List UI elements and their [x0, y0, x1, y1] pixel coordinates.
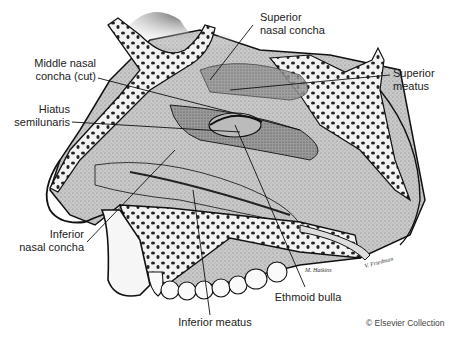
label-superior-meatus: Superior meatus: [393, 67, 435, 93]
artist-signature-1: M. Hatkins: [304, 267, 332, 273]
nasal-cavity-illustration: M. Hatkins V. Friedman: [0, 0, 452, 338]
label-line: semilunaris: [4, 116, 70, 129]
label-middle-nasal-concha: Middle nasal concha (cut): [28, 57, 96, 83]
label-ethmoid-bulla: Ethmoid bulla: [258, 291, 358, 304]
label-line: Ethmoid bulla: [258, 291, 358, 304]
label-line: Inferior: [4, 228, 84, 241]
label-line: Inferior meatus: [165, 316, 265, 329]
label-line: Superior: [260, 11, 325, 24]
copyright-credit: © Elsevier Collection: [366, 318, 445, 328]
label-hiatus-semilunaris: Hiatus semilunaris: [4, 103, 70, 129]
label-line: nasal concha: [4, 241, 84, 254]
artist-signature-2: V. Friedman: [364, 256, 394, 269]
label-line: nasal concha: [260, 24, 325, 37]
label-line: concha (cut): [28, 70, 96, 83]
label-inferior-meatus: Inferior meatus: [165, 316, 265, 329]
anatomy-figure: M. Hatkins V. Friedman Superior nasal co…: [0, 0, 452, 338]
label-line: Hiatus: [4, 103, 70, 116]
label-superior-nasal-concha: Superior nasal concha: [260, 11, 325, 37]
label-line: meatus: [393, 80, 435, 93]
label-line: Superior: [393, 67, 435, 80]
label-line: Middle nasal: [28, 57, 96, 70]
label-inferior-nasal-concha: Inferior nasal concha: [4, 228, 84, 254]
